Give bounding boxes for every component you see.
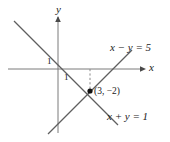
equation-label-x-plus-y: x + y = 1 [107,111,148,122]
y-tick-label-one: 1 [47,57,52,66]
x-axis-arrowhead [140,66,146,72]
x-tick-label-one: 1 [64,73,69,82]
intersection-point-marker [87,88,92,93]
coordinate-plane-figure: y x 1 1 x − y = 5 x + y = 1 (3, −2) [0,0,170,142]
y-axis-label: y [56,4,61,15]
equation-label-x-minus-y: x − y = 5 [110,42,151,53]
y-axis-arrowhead [55,16,61,22]
intersection-point-label: (3, −2) [94,87,120,97]
x-axis-label: x [149,62,154,73]
